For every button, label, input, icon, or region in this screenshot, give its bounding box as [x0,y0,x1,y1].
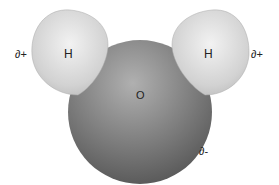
hydrogen-right-charge: ∂+ [251,48,263,60]
hydrogen-right-symbol: H [204,47,213,61]
hydrogen-left-charge: ∂+ [15,48,27,60]
oxygen-symbol: O [136,89,145,101]
hydrogen-left-symbol: H [64,47,73,61]
oxygen-charge: ∂- [199,145,208,157]
